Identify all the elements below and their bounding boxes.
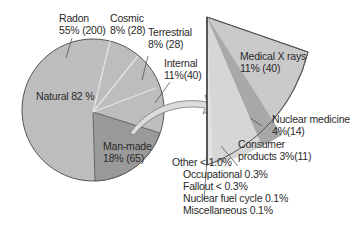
terrestrial-value: 8% (28) (148, 39, 183, 50)
medical-xrays-label: Medical X rays (240, 51, 306, 62)
manmade-label: Man-made (103, 141, 152, 152)
consumer-value: products 3%(11) (238, 151, 311, 162)
medical-xrays-value: 11% (40) (240, 63, 280, 74)
fallout-label: Fallout < 0.3% (183, 181, 248, 192)
cosmic-value: 8% (28) (110, 25, 145, 36)
internal-value: 11%(40) (164, 70, 202, 81)
radon-value: 55% (200) (59, 25, 106, 36)
manmade-value: 18% (65) (103, 153, 144, 164)
miscellaneous-label: Miscellaneous 0.1% (183, 205, 273, 216)
cosmic-label: Cosmic (110, 13, 144, 24)
fuel-cycle-label: Nuclear fuel cycle 0.1% (183, 193, 288, 204)
nuclear-medicine-value: 4%(14) (272, 126, 305, 137)
internal-label: Internal (164, 58, 197, 69)
other-label: Other < 1.0% (172, 157, 232, 168)
nuclear-medicine-label: Nuclear medicine (272, 114, 350, 125)
natural-label: Natural 82 % (36, 91, 94, 102)
occupational-label: Occupational 0.3% (183, 169, 268, 180)
consumer-label: Consumer (238, 139, 285, 150)
terrestrial-label: Terrestrial (148, 27, 192, 38)
radon-label: Radon (59, 13, 89, 24)
